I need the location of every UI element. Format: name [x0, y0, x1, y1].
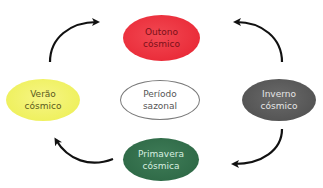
- node-label-line2: cósmico: [261, 100, 298, 112]
- arrow-verao-to-outono: [50, 22, 97, 62]
- arrow-inverno-to-outono: [236, 22, 282, 62]
- node-label-line1: Inverno: [261, 88, 298, 100]
- node-label-line1: Verão: [25, 88, 62, 100]
- node-primavera-cosmica: Primavera cósmica: [123, 138, 199, 181]
- arrow-primavera-to-verao: [56, 140, 113, 163]
- node-label-line1: Primavera: [138, 148, 184, 160]
- node-inverno-cosmico: Inverno cósmico: [242, 79, 316, 121]
- node-label-line2: sazonal: [143, 100, 177, 112]
- node-verao-cosmico: Verão cósmico: [6, 79, 80, 121]
- seasonal-cycle-diagram: Outono cósmico Verão cósmico Período saz…: [0, 0, 323, 188]
- node-periodo-sazonal: Período sazonal: [120, 80, 200, 120]
- arrow-inverno-to-primavera: [234, 129, 282, 164]
- node-label-line2: cósmico: [143, 38, 180, 50]
- node-label-line1: Outono: [143, 26, 180, 38]
- node-label-line2: cósmico: [25, 100, 62, 112]
- node-label-line1: Período: [143, 88, 177, 100]
- node-outono-cosmico: Outono cósmico: [123, 15, 200, 61]
- node-label-line2: cósmica: [138, 160, 184, 172]
